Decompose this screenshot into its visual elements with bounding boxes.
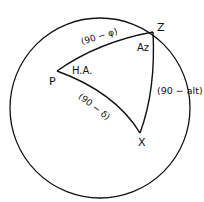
azimuth-label: Az [137, 43, 149, 53]
side-zx-label: (90 − alt) [157, 86, 203, 96]
arc-px [57, 71, 140, 133]
vertex-z-label: Z [157, 22, 165, 33]
hour-angle-label: H.A. [72, 66, 92, 76]
vertex-p-label: P [49, 76, 56, 87]
vertex-x-label: X [138, 137, 146, 148]
